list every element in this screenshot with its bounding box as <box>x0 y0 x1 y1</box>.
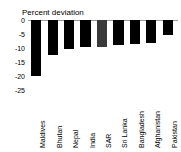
y-tick-label: 0 <box>21 17 25 24</box>
chart-title: Percent deviation <box>22 8 84 17</box>
y-tick-label: -20 <box>15 73 25 80</box>
bar-afghanistan <box>146 20 156 43</box>
bar-bangladesh <box>130 20 140 44</box>
x-tick-label: Afghanistan <box>154 111 161 148</box>
x-tick-label: Bangladesh <box>138 111 145 148</box>
y-tick-label: -5 <box>19 31 25 38</box>
bar-maldives <box>31 20 41 76</box>
bar-sar <box>97 20 107 47</box>
x-tick-label: Sri Lanka <box>121 118 128 148</box>
plot-area <box>28 20 176 90</box>
x-tick-label: Pakistan <box>171 121 178 148</box>
y-tick-label: -25 <box>15 87 25 94</box>
x-tick-label: Bhutan <box>56 126 63 148</box>
x-tick-label: India <box>89 133 96 148</box>
y-axis-tick-labels: 0-5-10-15-20-25 <box>0 0 25 152</box>
x-tick-label: Nepal <box>72 130 79 148</box>
x-tick-label: SAR <box>105 134 112 148</box>
x-tick-label: Maldives <box>39 120 46 148</box>
bar-nepal <box>64 20 74 49</box>
bar-bhutan <box>48 20 58 55</box>
bar-pakistan <box>163 20 173 35</box>
bar-india <box>80 20 90 47</box>
y-tick-label: -15 <box>15 59 25 66</box>
percent-deviation-bar-chart: Percent deviation 0-5-10-15-20-25 Maldiv… <box>0 0 181 152</box>
bar-sri-lanka <box>113 20 123 45</box>
y-tick-label: -10 <box>15 45 25 52</box>
